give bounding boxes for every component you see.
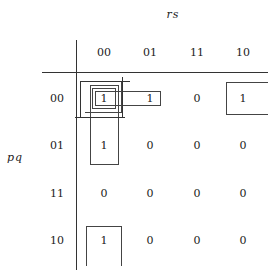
column-header-11: 11 bbox=[190, 46, 204, 59]
group-outer-square bbox=[85, 81, 122, 113]
cell-10-11: 0 bbox=[194, 234, 201, 247]
group-wrap-right-part bbox=[226, 82, 268, 115]
column-header-00: 00 bbox=[97, 46, 111, 59]
row-header-11: 11 bbox=[50, 187, 64, 200]
group-outer-left-stub bbox=[80, 81, 81, 117]
column-header-10: 10 bbox=[236, 46, 250, 59]
group-outer-right-stub bbox=[122, 77, 123, 117]
row-header-01: 01 bbox=[50, 139, 64, 152]
cell-00-11: 0 bbox=[194, 92, 201, 105]
horizontal-divider bbox=[42, 72, 268, 73]
cell-11-00: 0 bbox=[101, 187, 108, 200]
cell-01-10: 0 bbox=[240, 139, 247, 152]
row-header-10: 10 bbox=[50, 234, 64, 247]
cell-11-11: 0 bbox=[194, 187, 201, 200]
row-variable-label: pq bbox=[7, 151, 23, 164]
group-wrap-bottom-part bbox=[86, 226, 122, 266]
group-outer-top-stub bbox=[80, 81, 130, 82]
row-header-00: 00 bbox=[50, 92, 64, 105]
cell-01-01: 0 bbox=[147, 139, 154, 152]
cell-10-10: 0 bbox=[240, 234, 247, 247]
vertical-divider bbox=[76, 40, 77, 270]
cell-11-01: 0 bbox=[147, 187, 154, 200]
cell-11-10: 0 bbox=[240, 187, 247, 200]
column-variable-label: rs bbox=[167, 8, 180, 21]
group-outer-bottom-stub bbox=[75, 117, 125, 118]
column-header-01: 01 bbox=[143, 46, 157, 59]
cell-10-01: 0 bbox=[147, 234, 154, 247]
cell-01-11: 0 bbox=[194, 139, 201, 152]
